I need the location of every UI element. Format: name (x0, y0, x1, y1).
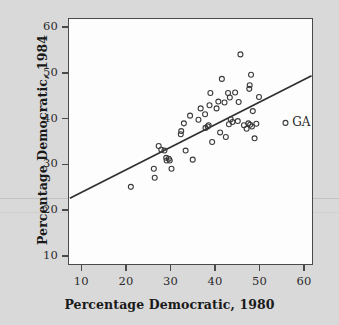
data-point (152, 175, 157, 180)
y-tick-mark (62, 72, 68, 73)
y-axis-label: Percentage Democratic, 1984 (35, 15, 50, 265)
data-point (233, 90, 238, 95)
data-point (151, 166, 156, 171)
data-point (183, 148, 188, 153)
x-tick-mark (303, 265, 304, 271)
plot-area (68, 18, 313, 265)
data-point (196, 117, 201, 122)
regression-line (70, 76, 312, 198)
x-tick-mark (170, 265, 171, 271)
x-tick-label: 20 (111, 274, 141, 288)
data-point (235, 119, 240, 124)
data-points-group (128, 52, 288, 189)
data-point (223, 134, 228, 139)
data-point (252, 136, 257, 141)
data-point (198, 106, 203, 111)
data-point (250, 109, 255, 114)
data-point (222, 100, 227, 105)
data-point (203, 112, 208, 117)
data-point (216, 99, 221, 104)
x-tick-mark (81, 265, 82, 271)
x-tick-mark (214, 265, 215, 271)
x-tick-label: 50 (245, 274, 275, 288)
data-point (210, 139, 215, 144)
data-point (207, 103, 212, 108)
data-point (238, 52, 243, 57)
point-annotation-label: GA (292, 115, 310, 129)
data-point (169, 166, 174, 171)
x-tick-mark (125, 265, 126, 271)
x-tick-label: 40 (200, 274, 230, 288)
y-tick-mark (62, 209, 68, 210)
x-tick-label: 10 (66, 274, 96, 288)
data-point (218, 130, 223, 135)
data-point (214, 106, 219, 111)
regression-line-segment (70, 76, 312, 198)
data-point (181, 121, 186, 126)
x-tick-label: 30 (155, 274, 185, 288)
data-point (236, 100, 241, 105)
plot-canvas (69, 19, 312, 264)
y-tick-mark (62, 26, 68, 27)
data-point (179, 129, 184, 134)
data-point (190, 157, 195, 162)
data-point (219, 76, 224, 81)
y-axis-label-wrapper: Percentage Democratic, 1984 (35, 15, 55, 265)
data-point (128, 184, 133, 189)
y-tick-mark (62, 164, 68, 165)
data-point (208, 90, 213, 95)
data-point (249, 72, 254, 77)
data-point (254, 121, 259, 126)
x-axis-label: Percentage Democratic, 1980 (0, 297, 339, 312)
x-tick-mark (259, 265, 260, 271)
y-tick-mark (62, 255, 68, 256)
scatter-plot-figure: 102030405060 102030405060 GA Percentage … (0, 0, 339, 325)
data-point (283, 120, 288, 125)
data-point (227, 95, 232, 100)
x-tick-label: 60 (289, 274, 319, 288)
data-point (257, 95, 262, 100)
y-tick-mark (62, 118, 68, 119)
data-point (188, 113, 193, 118)
